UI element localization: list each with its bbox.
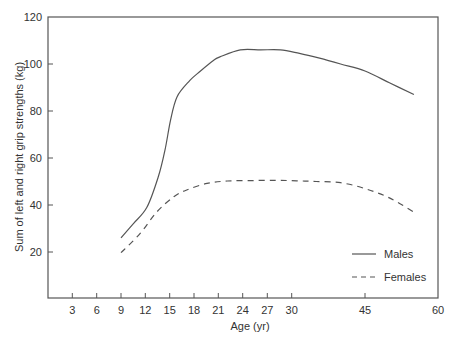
y-tick-label: 60 xyxy=(30,152,42,164)
legend-label-males: Males xyxy=(384,248,414,260)
females-line xyxy=(121,180,414,252)
x-tick-label: 60 xyxy=(432,304,444,316)
x-tick-label: 45 xyxy=(359,304,371,316)
x-tick-label: 12 xyxy=(139,304,151,316)
y-tick-label: 100 xyxy=(24,58,42,70)
x-axis-title: Age (yr) xyxy=(230,320,269,332)
x-tick-label: 9 xyxy=(118,304,124,316)
y-tick-label: 40 xyxy=(30,199,42,211)
x-tick-label: 3 xyxy=(69,304,75,316)
x-tick-label: 18 xyxy=(188,304,200,316)
males-line xyxy=(121,49,414,238)
y-axis-title: Sum of left and right grip strengths (kg… xyxy=(13,62,25,252)
plot-frame xyxy=(48,17,438,298)
legend-label-females: Females xyxy=(384,271,427,283)
x-tick-label: 30 xyxy=(286,304,298,316)
x-tick-label: 24 xyxy=(237,304,249,316)
x-tick-label: 27 xyxy=(261,304,273,316)
x-axis: 3 6 9 12 15 18 21 24 27 30 45 60 xyxy=(69,293,444,316)
grip-strength-chart: 20 40 60 80 100 120 3 6 9 12 15 18 21 24… xyxy=(0,0,454,341)
x-tick-label: 15 xyxy=(164,304,176,316)
x-tick-label: 21 xyxy=(212,304,224,316)
x-tick-label: 6 xyxy=(94,304,100,316)
y-tick-label: 80 xyxy=(30,105,42,117)
y-tick-label: 20 xyxy=(30,246,42,258)
legend: Males Females xyxy=(352,248,427,283)
y-tick-label: 120 xyxy=(24,11,42,23)
